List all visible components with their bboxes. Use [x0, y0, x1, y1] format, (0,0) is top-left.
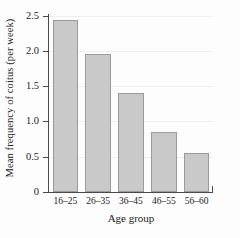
y-tick-label-0: 0	[11, 187, 39, 198]
y-tick-label-0-5: 0.5	[11, 152, 39, 163]
y-tick-label-1-5: 1.5	[11, 81, 39, 92]
bar-4	[184, 153, 210, 192]
y-tick-mark-0	[43, 192, 49, 193]
x-tick-label-2: 36–45	[115, 196, 148, 206]
x-axis-title: Age group	[49, 212, 213, 224]
y-tick-label-2-5: 2.5	[11, 11, 39, 22]
y-axis-title: Mean frequency of coitus (per week)	[0, 0, 18, 196]
bar-chart: Mean frequency of coitus (per week) 2.5 …	[0, 0, 240, 238]
bar-0	[53, 20, 79, 192]
bar-1	[85, 54, 111, 192]
x-tick-label-4: 56–60	[180, 196, 213, 206]
y-tick-label-1-0: 1.0	[11, 116, 39, 127]
x-tick-label-3: 46–55	[147, 196, 180, 206]
x-axis-line	[48, 192, 213, 193]
x-tick-label-1: 26–35	[82, 196, 115, 206]
bar-3	[151, 132, 177, 192]
bar-2	[118, 93, 144, 192]
y-tick-label-2-0: 2.0	[11, 46, 39, 57]
x-tick-label-0: 16–25	[49, 196, 82, 206]
bars-layer	[49, 16, 213, 192]
